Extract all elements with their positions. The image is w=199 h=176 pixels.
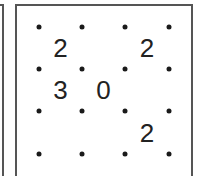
puzzle-cell[interactable] [125,69,169,111]
puzzle-cell[interactable]: 2 [125,111,169,154]
puzzle-cell[interactable] [39,111,82,154]
puzzle-cell[interactable]: 3 [39,69,82,111]
puzzle-cell[interactable] [82,27,125,69]
puzzle-cell[interactable] [82,111,125,154]
puzzle-cell[interactable]: 2 [125,27,169,69]
slitherlink-puzzle-grid[interactable]: 22302 [15,4,193,176]
adjacent-puzzle-panel-edge [0,4,4,176]
puzzle-cell[interactable]: 2 [39,27,82,69]
puzzle-cell[interactable]: 0 [82,69,125,111]
